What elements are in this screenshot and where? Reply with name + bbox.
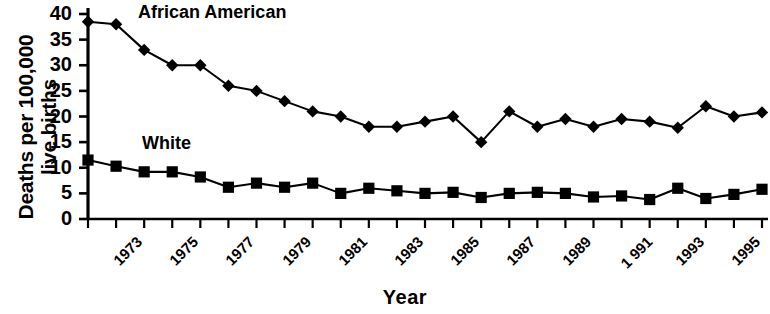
y-tick-label: 10 (26, 157, 72, 177)
data-point-marker (419, 188, 430, 199)
data-point-marker (672, 183, 683, 194)
data-point-marker (728, 189, 739, 200)
data-point-marker (335, 110, 347, 122)
data-point-marker (587, 121, 599, 133)
series-group (82, 15, 768, 205)
data-point-marker (307, 178, 318, 189)
data-point-marker (306, 105, 318, 117)
y-tick-label: 35 (26, 29, 72, 49)
data-point-marker (700, 193, 711, 204)
data-point-marker (250, 85, 262, 97)
data-point-marker (532, 187, 543, 198)
series-label-african-american: African American (138, 2, 286, 23)
data-point-marker (447, 187, 458, 198)
y-tick-label: 0 (26, 208, 72, 228)
data-point-marker (391, 185, 402, 196)
chart-svg (0, 0, 770, 314)
y-tick-label: 15 (26, 131, 72, 151)
data-point-marker (504, 188, 515, 199)
data-point-marker (363, 121, 375, 133)
data-point-marker (756, 184, 767, 195)
data-point-marker (167, 166, 178, 177)
data-point-marker (139, 166, 150, 177)
data-point-marker (643, 115, 655, 127)
data-point-marker (560, 188, 571, 199)
data-point-marker (644, 194, 655, 205)
data-point-marker (278, 95, 290, 107)
data-point-marker (335, 188, 346, 199)
data-point-marker (476, 192, 487, 203)
data-point-marker (616, 190, 627, 201)
data-point-marker (559, 113, 571, 125)
data-point-marker (615, 113, 627, 125)
data-point-marker (728, 110, 740, 122)
y-tick-label: 25 (26, 80, 72, 100)
data-point-marker (419, 115, 431, 127)
x-axis-title: Year (0, 286, 770, 309)
data-point-marker (531, 121, 543, 133)
mortality-line-chart: Deaths per 100,000 live births 051015202… (0, 0, 770, 314)
data-point-marker (110, 161, 121, 172)
x-axis-title-text: Year (343, 286, 427, 308)
y-tick-label: 20 (26, 106, 72, 126)
y-tick-label: 40 (26, 3, 72, 23)
data-point-marker (166, 59, 178, 71)
data-point-marker (588, 191, 599, 202)
plot-area: 0510152025303540 19731975197719791981198… (0, 0, 770, 314)
data-point-marker (82, 15, 94, 27)
series-label-white: White (142, 133, 191, 154)
data-point-marker (82, 154, 93, 165)
data-point-marker (251, 178, 262, 189)
data-point-marker (195, 171, 206, 182)
y-tick-label: 30 (26, 54, 72, 74)
data-point-marker (363, 183, 374, 194)
data-point-marker (391, 121, 403, 133)
y-tick-label: 5 (26, 182, 72, 202)
data-point-marker (279, 182, 290, 193)
data-point-marker (756, 106, 768, 118)
data-point-marker (223, 182, 234, 193)
